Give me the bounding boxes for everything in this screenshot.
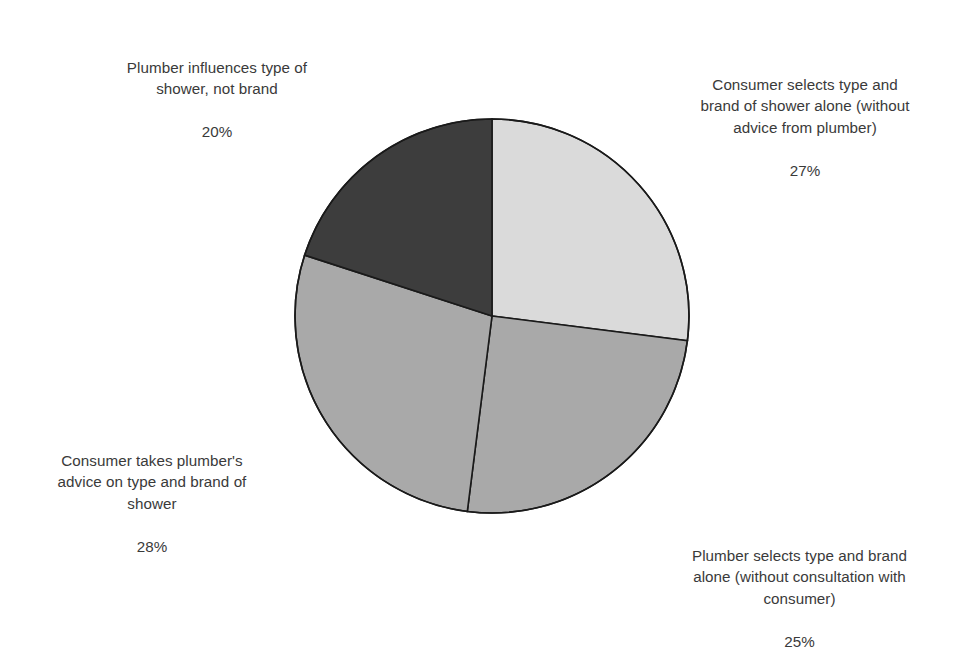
pie-label-text: Plumber influences type of shower, not b… — [57, 57, 377, 100]
pie-label-text: Plumber selects type and brand alone (wi… — [632, 545, 967, 610]
pie-slice-2 — [467, 316, 687, 513]
pie-label-text: Consumer selects type and brand of showe… — [640, 74, 970, 139]
pie-label-value: 25% — [632, 631, 967, 653]
pie-slices-group — [295, 119, 689, 513]
pie-label-text: Consumer takes plumber's advice on type … — [0, 450, 312, 515]
pie-chart-page: Plumber influences type of shower, not b… — [0, 0, 976, 663]
pie-label-consumer-takes-advice: Consumer takes plumber's advice on type … — [0, 428, 312, 579]
pie-label-plumber-influences-type: Plumber influences type of shower, not b… — [57, 35, 377, 164]
pie-label-value: 20% — [57, 121, 377, 143]
pie-label-value: 27% — [640, 160, 970, 182]
pie-label-consumer-selects-alone: Consumer selects type and brand of showe… — [640, 52, 970, 203]
pie-label-plumber-selects-alone: Plumber selects type and brand alone (wi… — [632, 523, 967, 663]
pie-label-value: 28% — [0, 536, 312, 558]
